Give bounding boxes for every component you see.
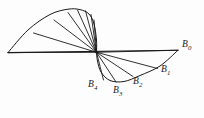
point-label-b1: B1 bbox=[161, 65, 170, 77]
diagram-svg bbox=[0, 0, 204, 118]
fan-ray-upper-2 bbox=[54, 20, 97, 52]
point-label-b4: B4 bbox=[88, 80, 97, 92]
center-vertex-point bbox=[95, 51, 98, 54]
point-label-b2: B2 bbox=[133, 77, 142, 89]
label-subscript: 3 bbox=[119, 89, 123, 96]
label-subscript: 1 bbox=[167, 68, 171, 75]
label-subscript: 2 bbox=[139, 81, 143, 88]
label-subscript: 0 bbox=[188, 43, 192, 50]
figure-canvas: B0B1B2B3B4 bbox=[0, 0, 204, 118]
upper-fan-ray-group bbox=[8, 10, 97, 53]
point-label-b0: B0 bbox=[182, 40, 191, 52]
label-subscript: 4 bbox=[94, 83, 98, 90]
upper-envelope-curve bbox=[8, 9, 97, 53]
point-label-b3: B3 bbox=[113, 86, 122, 98]
fan-ray-upper-1 bbox=[34, 33, 97, 52]
